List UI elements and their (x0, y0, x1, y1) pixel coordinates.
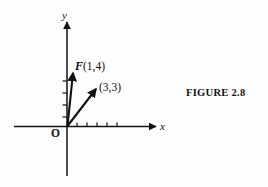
figure-caption: FIGURE 2.8 (186, 88, 246, 99)
origin-label: O (51, 128, 60, 140)
vector-name-F: F (75, 59, 83, 73)
vector-coords-F: (1,4) (83, 60, 105, 72)
vector-F-1-4 (68, 73, 74, 126)
vector-label-3-3: (3,3) (99, 82, 121, 94)
x-axis-label: x (160, 121, 165, 132)
figure-container: y x O F(1,4) (3,3) FIGURE 2.8 (0, 0, 268, 187)
vector-label-F: F(1,4) (75, 60, 105, 73)
y-axis-label: y (62, 10, 67, 21)
